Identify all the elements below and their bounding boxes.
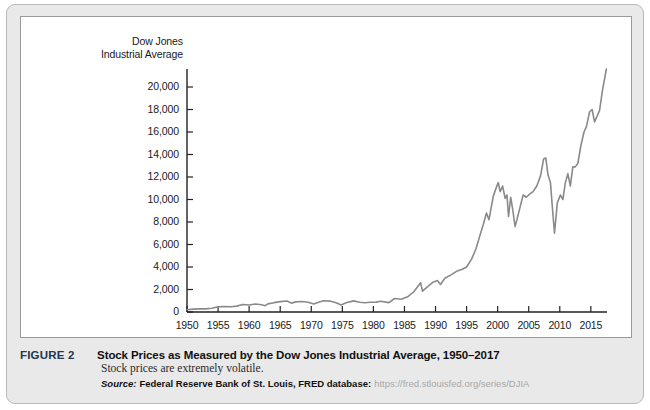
axis-ticks (187, 87, 591, 312)
figure-title: Stock Prices as Measured by the Dow Jone… (97, 349, 499, 361)
figure-number-label: FIGURE 2 (20, 349, 75, 361)
data-series-line (187, 69, 606, 310)
figure-caption: FIGURE 2 Stock Prices as Measured by the… (20, 345, 632, 397)
figure-subtitle: Stock prices are extremely volatile. (101, 362, 264, 374)
source-name: Federal Reserve Bank of St. Louis, FRED … (139, 378, 371, 389)
axis-lines (187, 69, 607, 312)
figure-source-line: Source:Federal Reserve Bank of St. Louis… (101, 378, 529, 389)
figure-card: Dow Jones Industrial Average 02,0004,000… (6, 4, 644, 404)
chart-plot-area: Dow Jones Industrial Average 02,0004,000… (21, 17, 631, 337)
chart-panel: Dow Jones Industrial Average 02,0004,000… (20, 16, 632, 338)
chart-graphic (21, 17, 631, 337)
source-url[interactable]: https://fred.stlouisfed.org/series/DJIA (374, 378, 529, 389)
source-label: Source: (101, 378, 136, 389)
caption-title-row: FIGURE 2 Stock Prices as Measured by the… (20, 345, 500, 363)
